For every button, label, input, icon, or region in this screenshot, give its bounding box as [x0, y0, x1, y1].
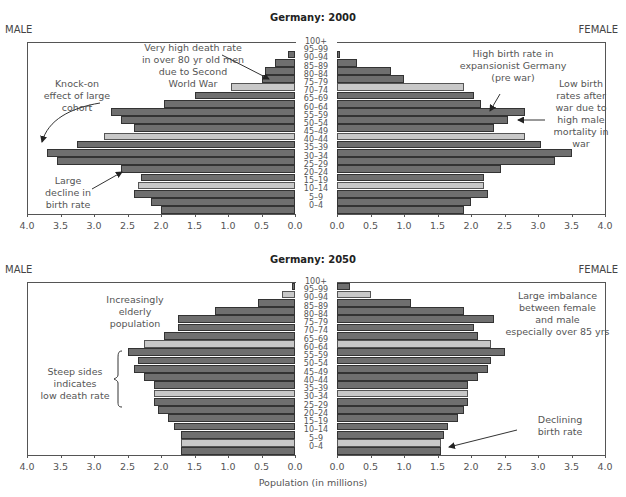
arrow-icon — [42, 103, 100, 142]
arrow-icon — [490, 94, 500, 111]
arrow-icon — [222, 55, 269, 79]
annotation-arrows — [0, 0, 626, 497]
brace-icon — [114, 351, 122, 407]
arrow-icon — [449, 430, 517, 447]
arrow-icon — [92, 172, 122, 189]
